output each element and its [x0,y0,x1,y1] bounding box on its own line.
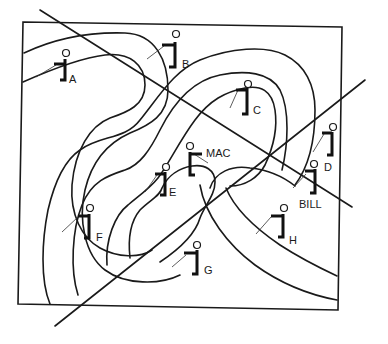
label-observer-f: F [96,232,103,243]
label-observer-a: A [69,74,76,85]
label-observer-h: H [289,235,297,246]
head-icon [187,143,194,150]
observer-G [172,242,201,275]
contour-s-core [129,166,215,262]
observer-MAC [187,143,209,176]
label-observer-d: D [324,162,332,173]
head-icon [245,81,252,88]
observer-D [313,124,337,156]
head-icon [330,124,337,131]
contour-s-outer [43,49,315,304]
head-icon [194,242,201,249]
label-observer-g: G [204,265,213,276]
head-icon [311,161,318,168]
head-icon [87,205,94,212]
label-observer-bill: BILL [299,199,322,210]
head-icon [173,31,180,38]
observer-C [230,81,252,115]
sight-line-1 [40,10,352,207]
label-observer-mac: MAC [206,148,230,159]
observer-A [36,50,70,81]
head-icon [281,205,288,212]
observer-H [256,205,288,238]
label-observer-e: E [169,187,176,198]
label-observer-b: B [182,59,189,70]
head-icon [163,164,170,171]
label-observer-c: C [253,105,261,116]
head-icon [63,50,70,57]
